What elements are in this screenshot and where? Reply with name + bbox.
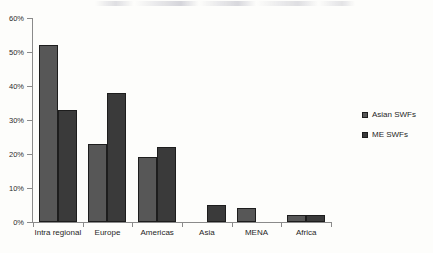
bar — [88, 144, 107, 222]
bar-group — [33, 18, 83, 222]
y-axis-tick-label: 0% — [0, 219, 24, 227]
x-axis-tick — [281, 222, 282, 227]
x-axis-tick — [83, 222, 84, 227]
bar — [138, 157, 157, 222]
y-axis-tick-label: 40% — [0, 83, 24, 91]
bar-group — [132, 18, 182, 222]
bar-group — [182, 18, 232, 222]
x-axis-category-label: Asia — [182, 228, 232, 237]
x-axis-tick — [331, 222, 332, 227]
x-axis-tick — [132, 222, 133, 227]
bar — [107, 93, 126, 222]
y-axis-tick-label: 50% — [0, 49, 24, 57]
bar — [287, 215, 306, 222]
bar — [207, 205, 226, 222]
x-axis-category-label: Africa — [281, 228, 331, 237]
y-axis-tick — [27, 120, 32, 121]
bar — [306, 215, 325, 222]
bar-chart: 0%10%20%30%40%50%60% Intra regionalEurop… — [0, 0, 433, 253]
x-axis-category-label: Americas — [132, 228, 182, 237]
x-axis-tick — [182, 222, 183, 227]
y-axis-tick — [27, 52, 32, 53]
bar-group — [83, 18, 133, 222]
legend-label: Asian SWFs — [372, 110, 416, 119]
y-axis-tick — [27, 18, 32, 19]
x-axis-category-label: Europe — [83, 228, 133, 237]
legend-label: ME SWFs — [372, 130, 408, 139]
y-axis-tick — [27, 222, 32, 223]
bar-group — [232, 18, 282, 222]
y-axis-tick — [27, 86, 32, 87]
x-axis-category-label: Intra regional — [33, 228, 83, 237]
y-axis-tick-label: 30% — [0, 117, 24, 125]
x-axis-tick — [232, 222, 233, 227]
y-axis-tick — [27, 188, 32, 189]
y-axis-tick-label: 60% — [0, 15, 24, 23]
legend-item[interactable]: ME SWFs — [362, 130, 416, 139]
x-axis-tick — [33, 222, 34, 227]
bar — [58, 110, 77, 222]
y-axis-tick — [27, 154, 32, 155]
scan-artifact-strip — [95, 1, 355, 6]
x-axis-category-label: MENA — [232, 228, 282, 237]
y-axis-tick-label: 10% — [0, 185, 24, 193]
bar — [237, 208, 256, 222]
bar — [157, 147, 176, 222]
legend-swatch-icon — [362, 132, 368, 138]
legend-item[interactable]: Asian SWFs — [362, 110, 416, 119]
legend-swatch-icon — [362, 112, 368, 118]
y-axis-tick-label: 20% — [0, 151, 24, 159]
plot-area — [33, 18, 331, 222]
chart-legend: Asian SWFsME SWFs — [362, 110, 416, 139]
bar — [39, 45, 58, 222]
bar-group — [281, 18, 331, 222]
